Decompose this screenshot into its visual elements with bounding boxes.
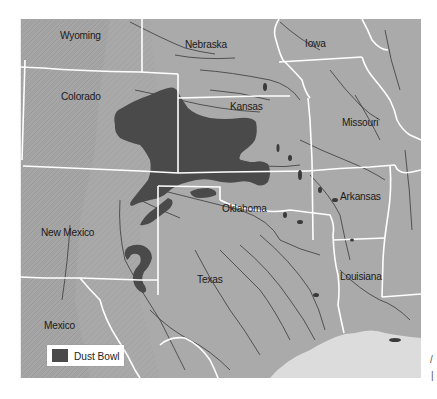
label-iowa: Iowa (305, 37, 326, 49)
label-arkansas: Arkansas (340, 190, 381, 202)
label-missouri: Missouri (342, 116, 378, 128)
label-louisiana: Louisiana (340, 270, 382, 282)
label-texas: Texas (197, 273, 223, 285)
label-kansas: Kansas (230, 100, 263, 112)
legend-swatch-dust-bowl (52, 349, 68, 362)
label-oklahoma: Oklahoma (222, 202, 267, 214)
map-frame: Wyoming Nebraska Iowa Colorado Kansas Mi… (20, 19, 421, 378)
label-new-mexico: New Mexico (41, 226, 94, 238)
label-mexico: Mexico (44, 319, 75, 331)
label-nebraska: Nebraska (185, 38, 227, 50)
map-legend: Dust Bowl (47, 345, 124, 366)
label-wyoming: Wyoming (60, 29, 101, 41)
edge-fragment-top: / (430, 354, 433, 365)
edge-fragment-bottom: | (431, 370, 434, 381)
label-colorado: Colorado (61, 90, 101, 102)
legend-label-dust-bowl: Dust Bowl (74, 350, 120, 362)
